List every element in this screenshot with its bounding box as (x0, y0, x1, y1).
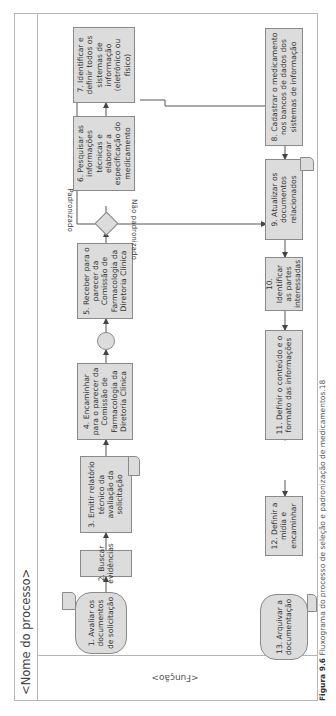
figure-caption: Figura 9.6 Fluxograma do processo de sel… (318, 380, 327, 701)
step-10-box: 10. Identificar as partes interessadas (265, 257, 303, 311)
step-12-label: 12. Definir a mídia e encaminhar (270, 499, 298, 553)
step-5-label: 5. Receber para o parecer da Comissão de… (82, 246, 128, 316)
flowchart-stage: <Nome do processo> <Função> (0, 0, 336, 716)
figure-caption-text: Fluxograma do processo de seleção e padr… (318, 380, 327, 656)
step-9-label: 9. Atualizar os documentos relacionados (270, 162, 298, 237)
step-2-box: 2. Buscar evidências (80, 550, 132, 577)
step-12-box: 12. Definir a mídia e encaminhar (265, 496, 303, 556)
process-title: <Nome do processo> (14, 13, 38, 701)
step-8-box: 8. Cadastrar o medicamento nos bancos de… (265, 28, 303, 146)
decision-yes-label: Padronizado (66, 188, 75, 232)
step-4-label: 4. Encaminhar para o parecer da Comissão… (82, 366, 128, 437)
step-1-terminal: 1. Avaliar os documentos de solicitação (75, 592, 127, 654)
step-5-box: 5. Receber para o parecer da Comissão de… (77, 243, 133, 319)
step-1-document-icon (62, 592, 76, 610)
step-11-label: 11. Definir o conteúdo e o formato das i… (275, 333, 294, 437)
step-2-label: 2. Buscar evidências (97, 543, 116, 583)
figure-number: Figura 9.6 (318, 658, 327, 701)
step-6-label: 6. Pesquisar as informações técnicas e e… (76, 119, 132, 188)
step-9-box: 9. Atualizar os documentos relacionados (265, 159, 303, 240)
step-8-label: 8. Cadastrar o medicamento nos bancos de… (270, 31, 298, 143)
step-4-box: 4. Encaminhar para o parecer da Comissão… (77, 363, 133, 440)
step-7-box: 7. Identificar e definir todos os sistem… (73, 27, 135, 103)
step-3-document-icon (128, 456, 140, 476)
step-1-label: 1. Avaliar os documentos de solicitação (87, 595, 115, 651)
step-connector-circle (97, 332, 115, 350)
step-9-document-icon (300, 157, 314, 171)
step-7-label: 7. Identificar e definir todos os sistem… (76, 30, 132, 100)
step-13-document-icon (307, 594, 317, 612)
decision-no-label: Não padronizado (130, 199, 139, 260)
step-6-box: 6. Pesquisar as informações técnicas e e… (73, 116, 135, 191)
step-13-label: 13. Arquivar a documentação (275, 597, 294, 657)
step-11-box: 11. Definir o conteúdo e o formato das i… (265, 330, 303, 440)
step-3-box: 3. Emitir relatório técnico da avaliação… (80, 456, 132, 533)
step-10-label: 10. Identificar as partes interessadas (265, 260, 302, 308)
step-3-label: 3. Emitir relatório técnico da avaliação… (87, 459, 124, 530)
step-13-terminal: 13. Arquivar a documentação (260, 594, 308, 660)
lane-label-column: <Função> (38, 655, 318, 701)
lane-label: <Função> (35, 673, 315, 683)
